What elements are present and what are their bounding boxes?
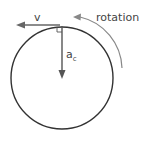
acceleration-label: ac [66, 48, 77, 63]
rotation-label: rotation [96, 11, 139, 24]
centripetal-acceleration-arrow [59, 26, 66, 79]
circular-motion-diagram: v ac rotation [0, 0, 146, 141]
velocity-label: v [34, 11, 41, 24]
